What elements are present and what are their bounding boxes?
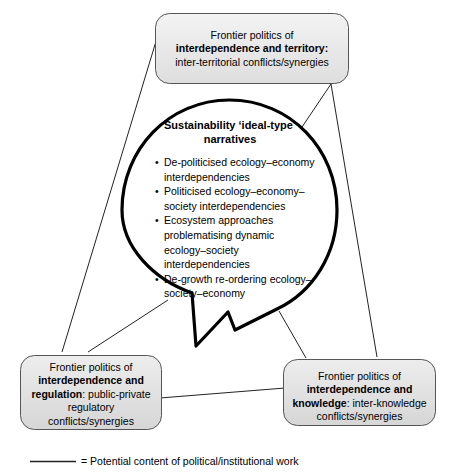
shapes-layer (0, 0, 455, 475)
speech-bubble-shape[interactable] (122, 100, 337, 346)
diagram-canvas: Frontier politics of interdependence and… (0, 0, 455, 475)
bottom-left-box-shape[interactable] (21, 356, 162, 430)
bottom-right-box-shape[interactable] (284, 360, 436, 426)
top-box-shape[interactable] (156, 14, 349, 84)
